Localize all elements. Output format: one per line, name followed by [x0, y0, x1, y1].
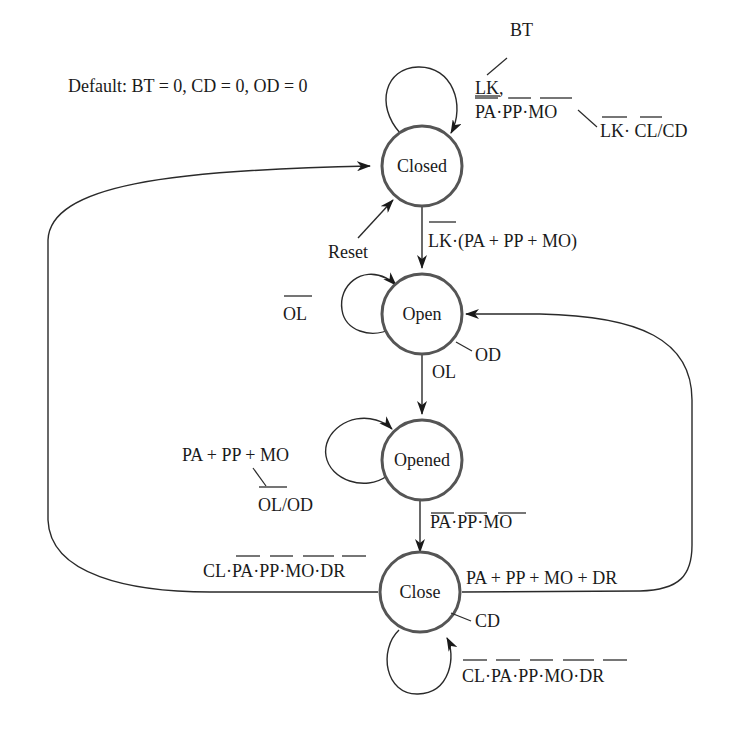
closed-self-condition-line2: PA·PP·MO [475, 102, 557, 122]
bt-leader-line [487, 58, 507, 75]
open-self-condition: OL [283, 304, 307, 324]
state-open: Open [382, 274, 462, 354]
close-to-closed-edge [48, 166, 378, 592]
state-close: Close [380, 552, 460, 632]
state-opened: Opened [382, 420, 462, 500]
state-label-opened: Opened [394, 450, 450, 470]
opened-od-leader-line [253, 468, 266, 486]
state-label-closed: Closed [397, 156, 447, 176]
output-closed-cd: LK· CL/CD [600, 121, 688, 141]
close-self-condition: CL·PA·PP·MO·DR [462, 666, 604, 686]
closed-self-loop-edge [386, 67, 457, 133]
open-od-leader-line [456, 342, 472, 351]
state-closed: Closed [382, 126, 462, 206]
closed-to-open-condition: LK·(PA + PP + MO) [428, 231, 577, 252]
close-to-closed-condition: CL·PA·PP·MO·DR [203, 561, 345, 581]
opened-to-close-condition: PA·PP·MO [430, 512, 512, 532]
closed-self-condition-line1: LK, [475, 78, 504, 98]
output-bt: BT [510, 20, 533, 40]
output-opened-od: OL/OD [258, 495, 313, 515]
output-open-od: OD [475, 345, 501, 365]
state-label-open: Open [403, 304, 442, 324]
close-to-open-condition: PA + PP + MO + DR [466, 568, 617, 588]
reset-arrow [358, 200, 393, 238]
close-self-loop-edge [387, 630, 451, 694]
output-close-cd: CD [475, 611, 500, 631]
defaults-note: Default: BT = 0, CD = 0, OD = 0 [68, 76, 308, 96]
state-label-close: Close [399, 582, 440, 602]
open-to-opened-condition: OL [432, 362, 456, 382]
close-cd-leader-line [451, 613, 471, 621]
state-diagram: Default: BT = 0, CD = 0, OD = 0 Closed O… [0, 0, 745, 731]
reset-label: Reset [328, 242, 368, 262]
opened-self-condition: PA + PP + MO [182, 445, 289, 465]
cd-leader-line [578, 110, 597, 127]
